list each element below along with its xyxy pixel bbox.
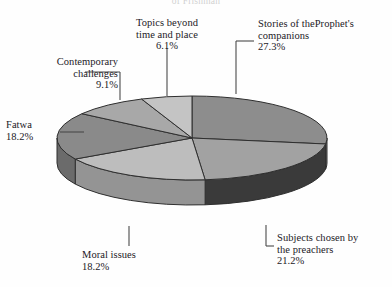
slice-label-contemporary-line1: Contemporary: [57, 56, 118, 67]
slice-label-subjects-line2: the preachers: [277, 244, 333, 255]
slice-value-contemporary: 9.1%: [8, 79, 118, 91]
slice-label-contemporary-line2: challenges: [73, 68, 118, 79]
slice-value-fatwa: 18.2%: [6, 131, 33, 143]
slice-label-subjects: Subjects chosen by the preachers 21.2%: [277, 232, 358, 267]
slice-label-topics: Topics beyond time and place 6.1%: [108, 17, 226, 52]
slice-label-subjects-line1: Subjects chosen by: [277, 232, 358, 243]
slice-label-contemporary: Contemporary challenges 9.1%: [8, 56, 118, 91]
pie-slice-stories-of-theprophet-s: [192, 96, 327, 144]
slice-label-stories-line2: companions: [258, 30, 309, 41]
pie-chart-figure: of Frishman Stories of theProphet's comp…: [0, 0, 392, 287]
slice-label-topics-line1: Topics beyond: [136, 17, 198, 28]
pie-3d-group: [57, 96, 327, 205]
slice-value-topics: 6.1%: [108, 40, 226, 52]
slice-label-fatwa: Fatwa 18.2%: [6, 119, 33, 142]
slice-label-fatwa-line1: Fatwa: [6, 119, 32, 130]
slice-value-moral: 18.2%: [82, 261, 136, 273]
slice-label-stories-line1: Stories of theProphet's: [258, 18, 354, 29]
slice-value-subjects: 21.2%: [277, 255, 358, 267]
slice-value-stories: 27.3%: [258, 41, 354, 53]
slice-label-topics-line2: time and place: [136, 29, 198, 40]
slice-label-moral-line1: Moral issues: [82, 249, 136, 260]
slice-label-moral: Moral issues 18.2%: [82, 249, 136, 272]
slice-label-stories: Stories of theProphet's companions 27.3%: [258, 18, 354, 53]
